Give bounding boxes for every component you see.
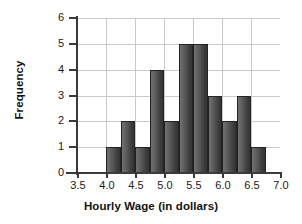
x-tick-mark <box>106 172 108 178</box>
y-tick-label: 2 <box>40 115 64 125</box>
y-tick-mark <box>69 120 77 122</box>
histogram-bar <box>179 44 194 173</box>
y-tick-mark <box>69 95 77 97</box>
y-tick-label: 0 <box>40 167 64 177</box>
x-tick-mark <box>77 172 79 178</box>
histogram-bar <box>106 147 121 173</box>
histogram-bar <box>208 96 223 174</box>
y-tick-label: 4 <box>40 64 64 74</box>
histogram-bar <box>222 121 237 173</box>
y-tick-mark <box>69 43 77 45</box>
histogram-chart: 0123456 3.54.04.55.05.56.06.57.0 Hourly … <box>0 0 302 224</box>
histogram-bar <box>164 121 179 173</box>
gridline-horizontal <box>77 18 280 19</box>
y-tick-mark <box>69 69 77 71</box>
x-tick-mark <box>222 172 224 178</box>
y-axis-title: Frequency <box>13 25 25 155</box>
x-tick-mark <box>193 172 195 178</box>
y-tick-label: 5 <box>40 38 64 48</box>
histogram-bar <box>121 121 136 173</box>
histogram-bar <box>135 147 150 173</box>
y-tick-label: 3 <box>40 90 64 100</box>
x-axis-spine <box>66 172 282 174</box>
histogram-bar <box>193 44 208 173</box>
histogram-bar <box>251 147 266 173</box>
y-tick-label: 6 <box>40 12 64 22</box>
y-tick-mark <box>69 17 77 19</box>
histogram-bar <box>150 70 165 173</box>
x-axis-title: Hourly Wage (in dollars) <box>0 200 302 212</box>
y-tick-mark <box>69 172 77 174</box>
y-tick-label: 1 <box>40 141 64 151</box>
x-tick-label: 7.0 <box>263 180 299 191</box>
x-tick-mark <box>280 172 282 178</box>
plot-area <box>77 18 280 173</box>
x-tick-mark <box>251 172 253 178</box>
x-tick-mark <box>135 172 137 178</box>
y-tick-mark <box>69 146 77 148</box>
histogram-bar <box>237 96 252 174</box>
x-tick-mark <box>164 172 166 178</box>
